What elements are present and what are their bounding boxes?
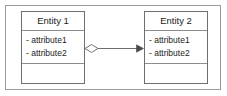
attribute-item: - attribute1 — [26, 34, 84, 47]
class-box-entity-2[interactable]: Entity 2 - attribute1 - attribute2 — [144, 11, 208, 84]
attribute-compartment-entity-2: - attribute1 - attribute2 — [145, 31, 207, 64]
attribute-item: - attribute2 — [26, 47, 84, 60]
class-name-entity-1: Entity 1 — [22, 12, 84, 31]
attribute-item: - attribute2 — [149, 47, 207, 60]
attribute-compartment-entity-1: - attribute1 - attribute2 — [22, 31, 84, 64]
diagram-canvas: Entity 1 - attribute1 - attribute2 Entit… — [0, 0, 227, 96]
attribute-item: - attribute1 — [149, 34, 207, 47]
operation-compartment-entity-1 — [22, 64, 84, 83]
class-name-entity-2: Entity 2 — [145, 12, 207, 31]
operation-compartment-entity-2 — [145, 64, 207, 83]
class-box-entity-1[interactable]: Entity 1 - attribute1 - attribute2 — [21, 11, 85, 84]
